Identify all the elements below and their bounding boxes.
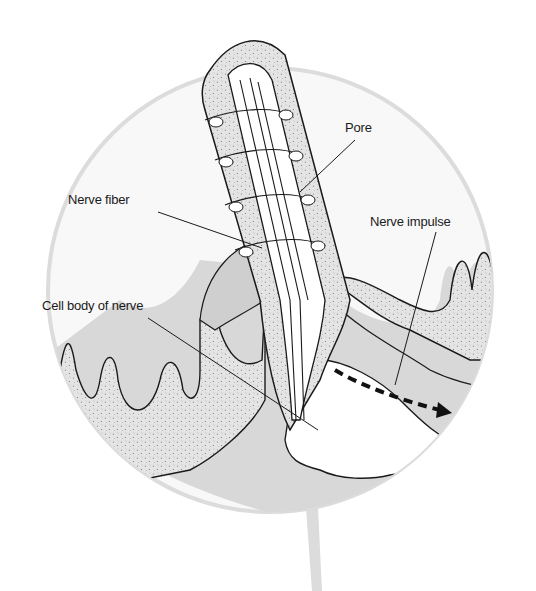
nerve-fiber-label: Nerve fiber — [68, 192, 129, 207]
magnifier-stem — [306, 508, 322, 591]
cell-body-label: Cell body of nerve — [42, 298, 143, 313]
nerve-impulse-label: Nerve impulse — [370, 214, 451, 229]
pore-label: Pore — [345, 120, 372, 135]
sensillum-diagram — [0, 0, 536, 591]
